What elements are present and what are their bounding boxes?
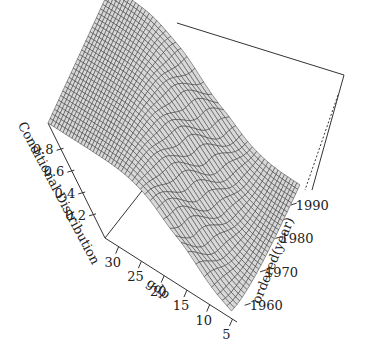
gdp-tick-label: 10 [195, 313, 212, 328]
chart-container: 51015202530gdp1960197019801990ordered(ye… [0, 0, 366, 349]
gdp-tick-label: 5 [222, 327, 230, 342]
year-tick-label: 1990 [296, 198, 329, 213]
surface-plot: 51015202530gdp1960197019801990ordered(ye… [0, 0, 366, 349]
gdp-tick-label: 15 [173, 298, 190, 313]
gdp-tick-label: 30 [104, 255, 121, 270]
gdp-tick-label: 25 [127, 269, 144, 284]
